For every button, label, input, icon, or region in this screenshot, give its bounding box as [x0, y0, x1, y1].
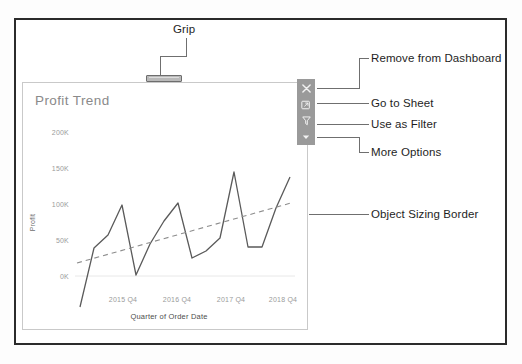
annotation-more-options: More Options — [371, 146, 441, 158]
leader-line-remove-a — [317, 88, 359, 89]
grip-leader-line-vertical — [186, 38, 187, 57]
leader-line-more-b — [359, 152, 369, 153]
annotation-use-as-filter: Use as Filter — [371, 118, 437, 130]
caret-down-icon[interactable] — [299, 129, 313, 144]
funnel-icon[interactable] — [299, 113, 313, 128]
x-tick-label: 2016 Q4 — [155, 296, 199, 303]
profit-line-series — [80, 172, 290, 307]
x-tick-label: 2017 Q4 — [209, 296, 253, 303]
grip-handle[interactable] — [146, 75, 182, 82]
grip-leader-line-horizontal — [160, 56, 187, 57]
grip-label: Grip — [173, 23, 195, 35]
x-tick-label: 2018 Q4 — [261, 296, 305, 303]
leader-line-border — [309, 214, 369, 215]
close-icon[interactable] — [299, 81, 313, 96]
annotation-remove-from-dashboard: Remove from Dashboard — [371, 52, 502, 64]
x-tick-label: 2015 Q4 — [101, 296, 145, 303]
leader-line-remove-b — [359, 58, 369, 59]
annotation-object-sizing-border: Object Sizing Border — [371, 208, 478, 220]
leader-line-filter — [317, 124, 369, 125]
object-toolbar[interactable] — [297, 79, 315, 145]
chart-svg — [23, 83, 309, 331]
annotation-go-to-sheet: Go to Sheet — [371, 97, 433, 109]
leader-line-goto — [317, 103, 369, 104]
leader-line-more-a — [317, 137, 359, 138]
dashboard-object[interactable]: Profit Trend 200K 150K 100K 50K 0K Profi… — [22, 82, 308, 330]
go-to-sheet-icon[interactable] — [299, 97, 313, 112]
leader-line-remove-v — [359, 58, 360, 89]
leader-line-more-v — [359, 137, 360, 152]
chart-plot-area: 200K 150K 100K 50K 0K Profit 2015 Q4 201… — [23, 83, 309, 331]
x-axis-title: Quarter of Order Date — [79, 312, 259, 321]
